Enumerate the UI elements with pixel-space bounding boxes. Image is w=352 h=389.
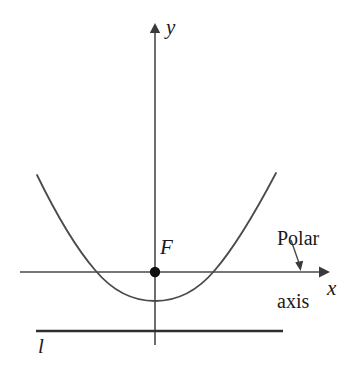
- polar-axis-label-line2: axis: [277, 291, 319, 312]
- focus-point: [150, 267, 160, 277]
- polar-axis-label-line1: Polar: [277, 228, 319, 249]
- polar-axis-label: Polar axis: [277, 186, 319, 333]
- directrix-label: l: [38, 335, 44, 357]
- focus-label: F: [160, 236, 173, 258]
- y-axis-label: y: [166, 16, 175, 38]
- x-axis-label: x: [327, 277, 336, 299]
